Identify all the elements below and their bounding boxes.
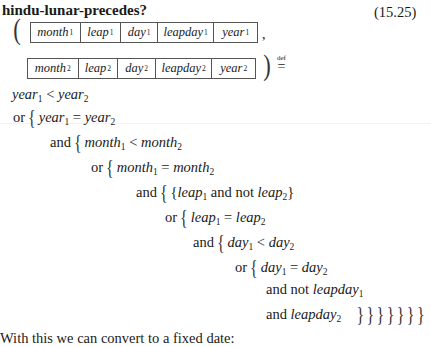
condition-line-2: or{year1 = year2 [13, 106, 115, 129]
record-1: month1 leap1 day1 leapday1 year1 [30, 22, 258, 43]
record-2-field-month: month2 [28, 59, 79, 78]
condition-line-9: and not leapday1 [266, 281, 363, 299]
record-1-field-year: year1 [214, 23, 257, 42]
record-2-field-day: day2 [118, 59, 156, 78]
condition-line-5: and{{leap1 and not leap2} [136, 181, 294, 204]
def-equals-symbol: def = [277, 55, 286, 72]
close-paren: ) [263, 50, 271, 80]
record-2-field-leap: leap2 [79, 59, 119, 78]
condition-line-1: year1 < year2 [12, 86, 88, 104]
open-paren: ( [13, 14, 21, 44]
comma: , [262, 27, 266, 43]
equation-number: (15.25) [374, 4, 416, 21]
record-1-field-day: day1 [121, 23, 158, 42]
function-name-heading: hindu-lunar-precedes? [2, 2, 147, 19]
condition-line-3: and{month1 < month2 [50, 131, 182, 154]
body-paragraph: With this we can convert to a fixed date… [0, 330, 235, 347]
record-2-field-leapday: leapday2 [156, 59, 213, 78]
condition-line-4: or{month1 = month2 [91, 156, 214, 179]
condition-line-6: or{leap1 = leap2 [165, 206, 266, 229]
record-2: month2 leap2 day2 leapday2 year2 [27, 58, 256, 79]
condition-line-10: and leapday2 } } } } } } } [266, 303, 431, 326]
closing-braces: } } } } } } } [356, 303, 423, 326]
record-2-field-year: year2 [212, 59, 255, 78]
record-1-field-leapday: leapday1 [158, 23, 215, 42]
condition-line-8: or{day1 = day2 [235, 256, 328, 279]
record-1-field-leap: leap1 [81, 23, 122, 42]
condition-line-7: and{day1 < day2 [193, 231, 294, 254]
record-1-field-month: month1 [31, 23, 81, 42]
